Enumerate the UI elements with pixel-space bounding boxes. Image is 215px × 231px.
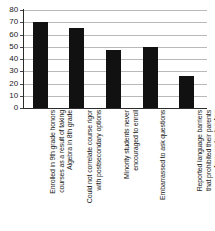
category-label-line: Enrolled in 9th grade honors <box>49 110 58 194</box>
plot-area <box>24 10 207 108</box>
y-tick-label-70: 70 <box>9 18 18 26</box>
y-axis-tick-labels: 80706050403020100 <box>0 0 24 118</box>
bar-chart-figure: 80706050403020100 Enrolled in 9th grade … <box>0 0 215 231</box>
category-label-line: courses as a result of taking <box>58 110 67 193</box>
category-label-line: Reported language barriers <box>196 110 205 191</box>
gridline-80 <box>24 10 207 11</box>
category-label-5: Reported language barriersthat prohibite… <box>196 110 215 228</box>
gridline-70 <box>24 22 207 23</box>
y-tick-label-80: 80 <box>9 6 18 14</box>
gridline-60 <box>24 35 207 36</box>
y-tick-label-10: 10 <box>9 92 18 100</box>
y-tick-label-20: 20 <box>9 80 18 88</box>
category-label-line: encouraged to enroll <box>132 110 141 171</box>
category-label-3: Minority students neverencouraged to enr… <box>123 110 157 228</box>
gridline-50 <box>24 47 207 48</box>
y-tick-label-0: 0 <box>14 104 18 112</box>
bar-4 <box>143 47 158 108</box>
y-tick-label-40: 40 <box>9 55 18 63</box>
category-label-line: Minority students never <box>123 110 132 179</box>
x-axis-category-labels: Enrolled in 9th grade honorscourses as a… <box>24 110 207 231</box>
category-label-line: that prohibited their parents <box>205 110 214 191</box>
category-label-line: Could not correlate course rigor <box>86 110 95 203</box>
gridline-0 <box>24 108 207 109</box>
category-label-line: Embarrassed to ask questions <box>159 110 168 200</box>
y-tick-label-60: 60 <box>9 31 18 39</box>
bar-1 <box>33 22 48 108</box>
bar-5 <box>179 76 194 108</box>
bar-3 <box>106 50 121 108</box>
category-label-line: with postsecondary options <box>95 110 104 191</box>
category-label-4: Embarrassed to ask questions <box>159 110 193 228</box>
y-tick-label-30: 30 <box>9 67 18 75</box>
bar-2 <box>69 28 84 108</box>
category-label-2: Could not correlate course rigorwith pos… <box>86 110 120 228</box>
y-tick-label-50: 50 <box>9 43 18 51</box>
category-label-line: from understanding <box>213 110 215 168</box>
category-label-1: Enrolled in 9th grade honorscourses as a… <box>49 110 83 228</box>
category-label-line: Algebra in 8th grade <box>66 110 75 170</box>
